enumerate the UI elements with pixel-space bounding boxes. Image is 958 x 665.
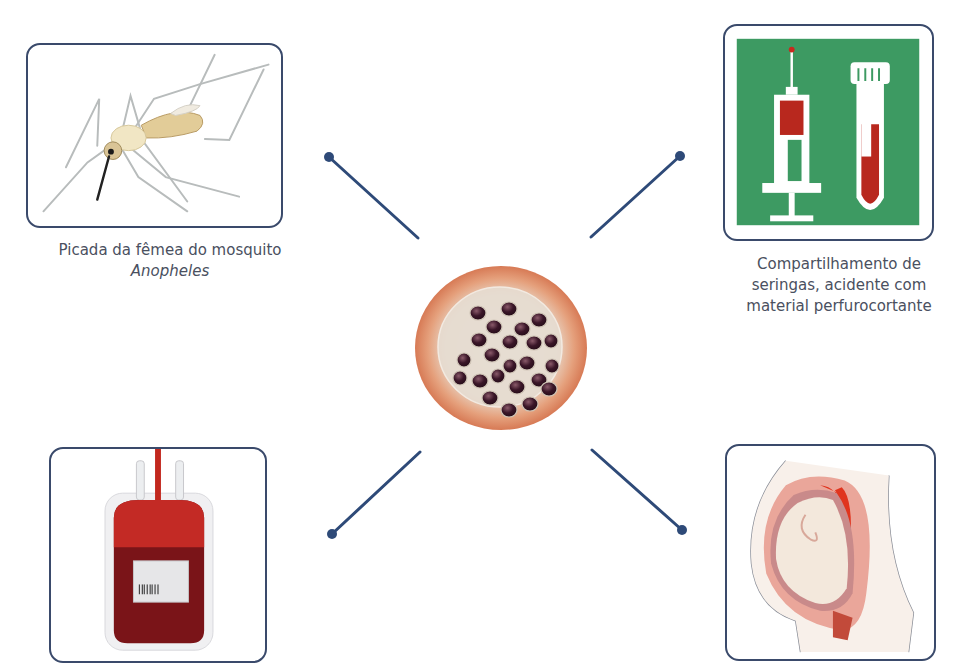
connector-dot-top-right — [675, 151, 685, 161]
caption-syringe: Compartilhamento de seringas, acidente c… — [720, 254, 958, 317]
infected-cell-icon — [412, 263, 590, 433]
panel-mosquito — [26, 43, 283, 228]
panel-syringe — [723, 24, 934, 241]
syringe-and-test-tube-icon — [725, 26, 932, 239]
connector-top-left — [329, 157, 418, 238]
caption-syringe-line3: material perfurocortante — [720, 296, 958, 317]
caption-mosquito-line1: Picada da fêmea do mosquito — [59, 241, 282, 259]
panel-pregnancy — [725, 444, 936, 661]
caption-syringe-line2: seringas, acidente com — [720, 275, 958, 296]
connector-bottom-left — [332, 452, 420, 534]
connector-bottom-right — [592, 450, 682, 530]
connector-dot-bottom-left — [327, 529, 337, 539]
mosquito-icon — [28, 45, 281, 226]
connector-dot-bottom-right — [677, 525, 687, 535]
pregnancy-icon — [727, 446, 934, 659]
caption-mosquito: Picada da fêmea do mosquito Anopheles — [20, 240, 320, 282]
blood-bag-icon — [51, 449, 265, 661]
caption-mosquito-species: Anopheles — [20, 261, 320, 282]
connector-dot-top-left — [324, 152, 334, 162]
connector-top-right — [591, 156, 680, 237]
panel-blood-bag — [49, 447, 267, 663]
caption-syringe-line1: Compartilhamento de — [720, 254, 958, 275]
